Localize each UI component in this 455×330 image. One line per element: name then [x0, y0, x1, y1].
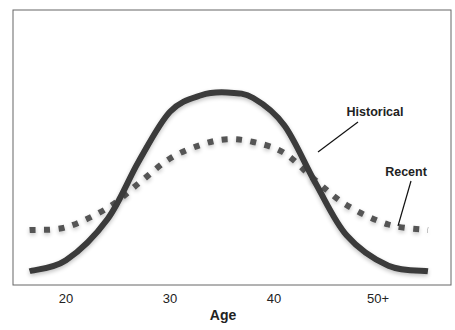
x-tick-label: 50+ — [367, 291, 389, 306]
age-distribution-chart: HistoricalRecent 20304050+ Age — [0, 0, 455, 330]
x-tick-label: 30 — [163, 291, 177, 306]
x-tick-label: 20 — [59, 291, 73, 306]
annotation-historical-label: Historical — [347, 105, 404, 119]
plot-area-frame — [13, 10, 451, 285]
x-tick-label: 40 — [267, 291, 281, 306]
x-axis: 20304050+ — [59, 291, 389, 306]
x-axis-label: Age — [210, 307, 237, 323]
annotation-recent-label: Recent — [385, 165, 428, 179]
